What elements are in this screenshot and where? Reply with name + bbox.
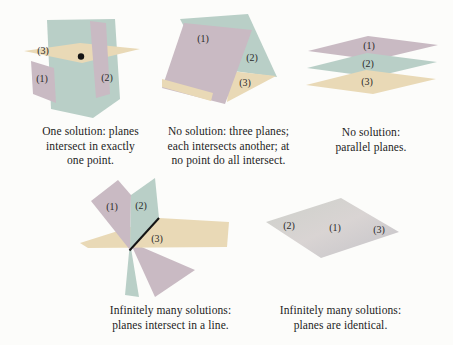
caption-line: each intersects another; at <box>146 139 311 154</box>
figure-parallel-planes: (1) (2) (3) <box>300 20 448 112</box>
figure-one-solution: (3) (1) (2) <box>22 5 144 123</box>
caption-line: planes are identical. <box>258 318 423 333</box>
plane-2-teal <box>47 19 120 118</box>
plane-2-label: (2) <box>283 220 295 232</box>
plane-3-label: (3) <box>239 77 251 89</box>
plane-3-label: (3) <box>37 45 49 57</box>
plane-3-label: (3) <box>361 76 373 88</box>
caption-identical-planes: Infinitely many solutions: planes are id… <box>258 303 423 332</box>
plane-2-label: (2) <box>362 58 374 70</box>
plane-1-label: (1) <box>363 40 375 52</box>
plane-2-label: (2) <box>135 200 147 212</box>
caption-no-solution-tent: No solution: three planes; each intersec… <box>146 124 311 168</box>
figure-no-solution-tent: (1) (2) (3) <box>155 3 285 115</box>
caption-line: no point do all intersect. <box>146 153 311 168</box>
plane-3-label: (3) <box>373 224 385 236</box>
textbook-figure-plane-intersections: (3) (1) (2) One solution: planes interse… <box>0 0 453 345</box>
plane-2-label: (2) <box>101 72 113 84</box>
figure-line-intersection: (1) (2) (3) <box>50 172 235 302</box>
caption-line: No solution: three planes; <box>146 124 311 139</box>
caption-line-intersection: Infinitely many solutions: planes inters… <box>88 303 253 332</box>
caption-one-solution: One solution: planes intersect in exactl… <box>18 124 163 168</box>
caption-line: One solution: planes <box>18 124 163 139</box>
plane-1-label: (1) <box>36 73 48 85</box>
plane-1-label: (1) <box>329 222 341 234</box>
caption-line: intersect in exactly <box>18 139 163 154</box>
caption-line: one point. <box>18 153 163 168</box>
plane-3-label: (3) <box>151 233 163 245</box>
figure-identical-planes: (2) (1) (3) <box>253 185 403 265</box>
plane-1-label: (1) <box>106 201 118 213</box>
caption-line: Infinitely many solutions: <box>88 303 253 318</box>
plane-1-label: (1) <box>197 33 209 45</box>
caption-line: No solution: <box>296 125 446 140</box>
plane-1-pink-lower <box>130 242 195 297</box>
caption-line: Infinitely many solutions: <box>258 303 423 318</box>
caption-parallel-planes: No solution: parallel planes. <box>296 125 446 154</box>
caption-line: planes intersect in a line. <box>88 318 253 333</box>
intersection-point-dot <box>78 53 84 59</box>
caption-line: parallel planes. <box>296 140 446 155</box>
plane-2-label: (2) <box>246 52 258 64</box>
